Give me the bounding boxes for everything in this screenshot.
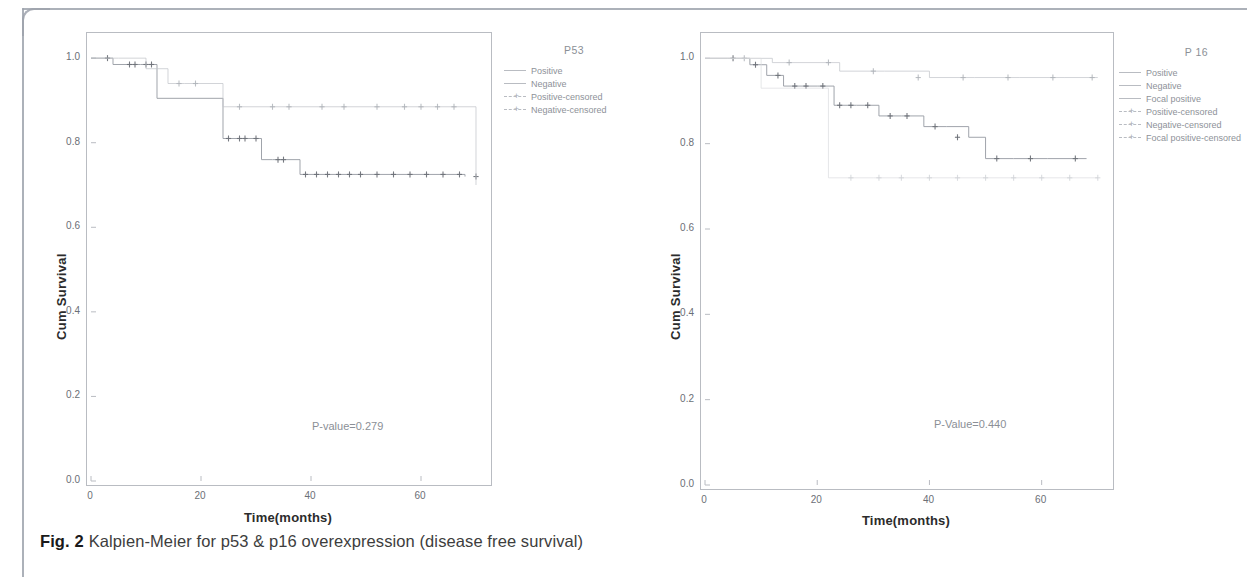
legend-line-swatch-icon (1119, 68, 1141, 78)
censored-marker (865, 102, 870, 108)
censored-marker (374, 171, 379, 177)
censored-marker (848, 175, 853, 181)
censored-marker (424, 171, 429, 177)
censored-marker (407, 171, 412, 177)
censored-marker (391, 171, 396, 177)
censored-marker (286, 104, 291, 110)
censored-marker (1095, 175, 1100, 181)
censored-marker (753, 62, 758, 68)
censored-marker (242, 135, 247, 141)
censored-marker (955, 175, 960, 181)
censored-marker (226, 135, 231, 141)
censored-marker (932, 124, 937, 130)
x-axis-title-right: Time(months) (700, 513, 1112, 528)
censored-marker (457, 171, 462, 177)
censored-marker (983, 175, 988, 181)
censored-marker (904, 113, 909, 119)
x-tick-label: 20 (801, 494, 831, 505)
legend-item-label: Positive (1146, 68, 1178, 78)
legend-item-label: Focal positive-censored (1146, 133, 1241, 143)
censored-marker (848, 102, 853, 108)
censored-marker (374, 104, 379, 110)
legend-censored-swatch-icon: + (504, 92, 526, 102)
legend-item: Positive (504, 64, 644, 77)
legend-p16: P 16 PositiveNegativeFocal positive+Posi… (1119, 46, 1247, 144)
legend-censored-swatch-icon: + (1119, 120, 1141, 130)
legend-line-swatch-icon (1119, 81, 1141, 91)
y-tick-label: 0.4 (46, 305, 80, 316)
figure-caption-label: Fig. 2 (40, 532, 84, 550)
legend-p53: P53 PositiveNegative+Positive-censored+N… (504, 44, 644, 116)
legend-item: Positive (1119, 66, 1247, 79)
censored-marker (1005, 75, 1010, 81)
legend-item-label: Negative (1146, 81, 1182, 91)
legend-item: Focal positive (1119, 92, 1247, 105)
y-tick-label: 0.4 (660, 307, 694, 318)
plot-frame-right (700, 32, 1114, 490)
survival-step-curve (705, 58, 1087, 158)
x-tick-label: 40 (913, 494, 943, 505)
chart-panel-p16: Cum Survival Time(months) 1.00.80.60.40.… (644, 10, 1244, 500)
y-tick-label: 0.0 (46, 474, 80, 485)
censored-marker (916, 75, 921, 81)
censored-marker (876, 175, 881, 181)
censored-marker (358, 171, 363, 177)
censored-marker (336, 171, 341, 177)
legend-line-swatch-icon (504, 79, 526, 89)
censored-marker (275, 157, 280, 163)
figure-area: Cum Survival Time(months) 1.00.80.60.40.… (24, 10, 1247, 500)
censored-marker (899, 175, 904, 181)
y-tick-label: 1.0 (660, 51, 694, 62)
survival-step-curve (91, 58, 476, 185)
censored-marker (787, 60, 792, 66)
legend-censored-swatch-icon: + (1119, 133, 1141, 143)
censored-marker (1011, 175, 1016, 181)
plot-frame-left (86, 32, 492, 486)
p-value-annotation-right: P-Value=0.440 (934, 418, 1006, 430)
legend-line-swatch-icon (504, 66, 526, 76)
censored-marker (237, 104, 242, 110)
censored-marker (451, 104, 456, 110)
censored-marker (1067, 175, 1072, 181)
censored-marker (314, 171, 319, 177)
legend-item-label: Positive-censored (531, 92, 603, 102)
censored-marker (193, 81, 198, 87)
chart-panel-p53: Cum Survival Time(months) 1.00.80.60.40.… (24, 10, 644, 500)
y-tick-label: 1.0 (46, 51, 80, 62)
x-tick-label: 60 (405, 490, 435, 501)
censored-marker (871, 68, 876, 74)
legend-item: +Negative-censored (1119, 118, 1247, 131)
y-tick-label: 0.2 (46, 389, 80, 400)
survival-step-curve (705, 58, 1098, 77)
x-tick-label: 40 (295, 490, 325, 501)
legend-line-swatch-icon (1119, 94, 1141, 104)
legend-item-label: Focal positive (1146, 94, 1201, 104)
censored-marker (237, 135, 242, 141)
censored-marker (303, 171, 308, 177)
figure-caption: Fig. 2Kalpien-Meier for p53 & p16 overex… (40, 532, 1140, 551)
x-tick-label: 20 (185, 490, 215, 501)
censored-marker (270, 104, 275, 110)
censored-marker (994, 156, 999, 162)
legend-item-label: Negative-censored (1146, 120, 1222, 130)
censored-marker (435, 104, 440, 110)
legend-item: Negative (1119, 79, 1247, 92)
x-tick-label: 60 (1026, 494, 1056, 505)
censored-marker (1073, 156, 1078, 162)
censored-marker (176, 81, 181, 87)
legend-item-label: Positive (531, 66, 563, 76)
p-value-annotation-left: P-value=0.279 (312, 420, 383, 432)
censored-marker (319, 104, 324, 110)
y-tick-label: 0.0 (660, 478, 694, 489)
legend-censored-swatch-icon: + (1119, 107, 1141, 117)
kaplan-meier-plot-right (701, 33, 1113, 489)
censored-marker (149, 61, 154, 67)
legend-title-p53: P53 (504, 44, 644, 56)
censored-marker (775, 72, 780, 78)
legend-item: Negative (504, 77, 644, 90)
x-axis-title-left: Time(months) (86, 510, 490, 525)
censored-marker (325, 171, 330, 177)
legend-item: +Positive-censored (504, 90, 644, 103)
censored-marker (402, 104, 407, 110)
censored-marker (826, 60, 831, 66)
